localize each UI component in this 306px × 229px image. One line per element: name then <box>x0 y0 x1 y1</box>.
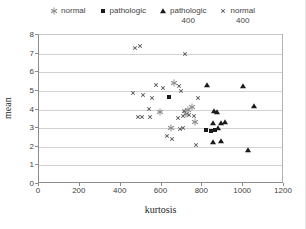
y-tick-label: 0 <box>30 179 34 188</box>
asterisk-marker-icon <box>174 80 175 87</box>
legend-label-line2: 400 <box>230 16 254 26</box>
x-tick-mark <box>79 183 80 186</box>
asterisk-marker-icon <box>191 103 192 110</box>
legend-label-line1: pathologic <box>170 6 206 16</box>
y-tick-label: 5 <box>30 85 34 94</box>
gridline <box>39 54 282 55</box>
y-tick-label: 7 <box>30 48 34 57</box>
x-tick-label: 0 <box>36 186 40 195</box>
x-tick-mark <box>201 183 202 186</box>
y-tick-mark <box>35 71 38 72</box>
legend-item-normal-400: normal400 <box>219 6 254 26</box>
asterisk-marker-glyph <box>54 7 55 14</box>
x-marker-icon <box>194 142 199 147</box>
gridline <box>39 165 282 166</box>
x-marker-icon <box>192 114 197 119</box>
y-tick-mark <box>35 146 38 147</box>
y-tick-label: 3 <box>30 123 34 132</box>
gridline <box>39 128 282 129</box>
y-tick-mark <box>35 90 38 91</box>
legend-label-line1: normal <box>61 6 85 16</box>
triangle-marker-icon <box>204 83 210 88</box>
asterisk-marker-icon <box>159 109 160 116</box>
asterisk-marker-icon <box>195 118 196 125</box>
x-marker-icon <box>149 96 154 101</box>
square-marker-icon <box>99 6 107 15</box>
legend-item-pathologic: pathologic <box>99 6 146 26</box>
legend-item-label: pathologic400 <box>170 6 206 26</box>
x-axis-title: kurtosis <box>38 204 283 215</box>
y-tick-label: 4 <box>30 104 34 113</box>
x-tick-mark <box>120 183 121 186</box>
plot-area <box>38 34 283 183</box>
triangle-marker-icon <box>222 119 228 124</box>
legend-item-label: pathologic <box>110 6 146 16</box>
legend-item-pathologic-400: pathologic400 <box>159 6 206 26</box>
y-tick-label: 8 <box>30 30 34 39</box>
x-tick-label: 400 <box>113 186 126 195</box>
triangle-marker-icon <box>240 83 246 88</box>
x-marker-icon <box>140 92 145 97</box>
y-tick-mark <box>35 109 38 110</box>
x-marker-icon <box>175 115 180 120</box>
legend-label-line2: 400 <box>170 16 206 26</box>
triangle-marker-icon <box>210 139 216 144</box>
x-marker-icon <box>219 6 227 15</box>
x-marker-icon <box>195 96 200 101</box>
x-marker-icon <box>153 83 158 88</box>
scatter-plot-figure: normalpathologicpathologic400normal400 m… <box>0 0 305 229</box>
gridline <box>39 72 282 73</box>
x-tick-mark <box>38 183 39 186</box>
triangle-marker-glyph <box>160 8 166 13</box>
x-marker-icon <box>148 114 153 119</box>
square-marker-icon <box>167 95 171 99</box>
y-tick-mark <box>35 164 38 165</box>
x-marker-icon <box>181 114 186 119</box>
gridline <box>39 91 282 92</box>
y-axis-tick-labels: 012345678 <box>16 34 34 183</box>
y-tick-mark <box>35 127 38 128</box>
triangle-marker-icon <box>215 125 221 130</box>
x-tick-mark <box>283 183 284 186</box>
triangle-marker-icon <box>159 6 167 15</box>
triangle-marker-icon <box>245 148 251 153</box>
x-marker-icon <box>178 127 183 132</box>
x-tick-mark <box>161 183 162 186</box>
x-tick-mark <box>242 183 243 186</box>
x-marker-icon <box>179 88 184 93</box>
legend-item-label: normal <box>61 6 85 16</box>
legend-label-line1: pathologic <box>110 6 146 16</box>
x-tick-label: 1000 <box>233 186 251 195</box>
x-marker-glyph <box>221 8 226 13</box>
x-marker-icon <box>139 114 144 119</box>
y-tick-label: 2 <box>30 141 34 150</box>
legend-item-label: normal400 <box>230 6 254 26</box>
triangle-marker-icon <box>218 138 224 143</box>
triangle-marker-icon <box>214 109 220 114</box>
x-marker-icon <box>160 86 165 91</box>
x-marker-icon <box>169 137 174 142</box>
x-marker-icon <box>147 106 152 111</box>
asterisk-marker-icon <box>50 6 58 15</box>
x-tick-label: 600 <box>154 186 167 195</box>
y-tick-mark <box>35 34 38 35</box>
square-marker-glyph <box>101 9 105 13</box>
triangle-marker-icon <box>251 103 257 108</box>
chart-legend: normalpathologicpathologic400normal400 <box>0 6 305 26</box>
x-tick-label: 1200 <box>274 186 292 195</box>
x-marker-icon <box>130 90 135 95</box>
x-marker-icon <box>132 46 137 51</box>
triangle-marker-icon <box>210 120 216 125</box>
y-tick-label: 1 <box>30 160 34 169</box>
legend-item-normal: normal <box>50 6 85 26</box>
asterisk-marker-icon <box>171 125 172 132</box>
x-axis-tick-labels: 020040060080010001200 <box>38 186 283 196</box>
x-marker-icon <box>182 51 187 56</box>
x-tick-label: 200 <box>72 186 85 195</box>
x-tick-label: 800 <box>195 186 208 195</box>
y-axis-title: mean <box>1 34 14 183</box>
legend-label-line1: normal <box>230 6 254 16</box>
y-tick-mark <box>35 53 38 54</box>
x-marker-icon <box>138 44 143 49</box>
y-tick-label: 6 <box>30 67 34 76</box>
